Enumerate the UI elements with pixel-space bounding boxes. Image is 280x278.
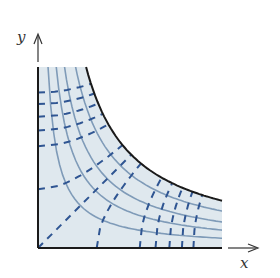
flow-region [38,67,222,248]
y-axis-label: y [16,28,26,46]
y-axis-arrow [34,34,42,62]
corner-flow-diagram: y x [0,0,280,278]
x-axis-arrow [228,244,258,252]
x-axis-label: x [240,254,249,272]
